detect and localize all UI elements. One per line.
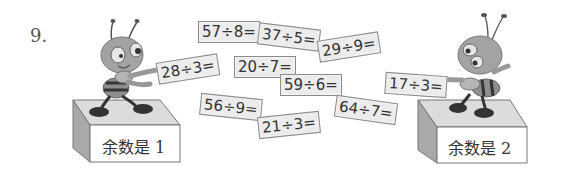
remainder-2-label: 余数是 2: [448, 135, 511, 159]
division-card-59div6[interactable]: 59÷6=: [280, 74, 342, 96]
division-card-57div8[interactable]: 57÷8=: [198, 21, 260, 43]
worksheet-scene: 9.: [0, 0, 567, 174]
remainder-1-label: 余数是 1: [102, 134, 165, 158]
division-card-17div3[interactable]: 17÷3=: [384, 72, 447, 98]
